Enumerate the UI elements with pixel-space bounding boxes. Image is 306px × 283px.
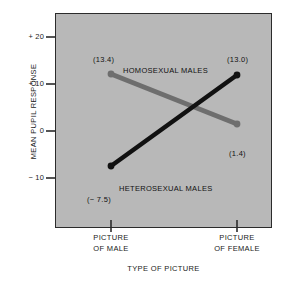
series-heterosexual-males-point-female (234, 72, 241, 79)
series-heterosexual-males-point-male (108, 163, 115, 170)
data-label-homosexual-female-picture: (1.4) (229, 150, 246, 158)
series-heterosexual-males (108, 72, 241, 170)
series-label-homosexual-males: HOMOSEXUAL MALES (123, 67, 208, 75)
chart-graphics (0, 0, 306, 283)
series-heterosexual-males-line (111, 75, 237, 166)
series-homosexual-males-line (111, 74, 237, 124)
x-tick-marks (111, 220, 237, 232)
series-label-heterosexual-males: HETEROSEXUAL MALES (119, 185, 212, 193)
series-homosexual-males-point-female (234, 121, 241, 128)
series-homosexual-males-point-male (108, 71, 115, 78)
data-label-heterosexual-male-picture: (− 7.5) (87, 196, 111, 204)
data-label-heterosexual-female-picture: (13.0) (227, 56, 248, 64)
y-tick-marks (46, 37, 56, 178)
pupil-response-line-chart: + 20 + 10 0 − 10 MEAN PUPIL RESPONSE PIC… (0, 0, 306, 283)
data-label-homosexual-male-picture: (13.4) (93, 56, 114, 64)
